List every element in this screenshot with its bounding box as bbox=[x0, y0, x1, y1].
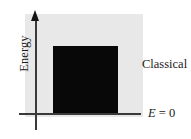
zero-energy-symbol: E bbox=[148, 106, 156, 120]
y-axis-label: Energy bbox=[17, 23, 32, 85]
arrow-up-icon bbox=[31, 10, 39, 21]
zero-energy-operator: = bbox=[159, 106, 166, 120]
zero-energy-label: E = 0 bbox=[148, 106, 175, 121]
energy-continuum-block bbox=[53, 46, 118, 114]
classical-energy-diagram: Energy Classical E = 0 bbox=[0, 0, 191, 139]
zero-energy-value: 0 bbox=[169, 106, 175, 120]
zero-energy-axis-line bbox=[19, 113, 141, 115]
classical-region-label: Classical bbox=[142, 57, 187, 72]
